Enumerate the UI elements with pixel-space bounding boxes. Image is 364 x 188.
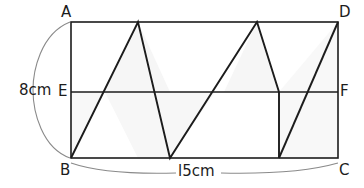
shaded-regions	[71, 22, 338, 158]
width-brace-right	[221, 163, 338, 173]
vertex-label-c: C	[339, 163, 349, 178]
shade-triangle-upper-right	[224, 22, 279, 92]
shade-triangle-upper-left	[105, 22, 170, 92]
width-dimension-label: l5cm	[176, 164, 217, 179]
diagram-canvas: A D E F B C 8cm l5cm	[0, 0, 364, 188]
vertex-label-e: E	[58, 84, 67, 99]
width-brace-left	[71, 163, 176, 173]
vertex-label-d: D	[339, 5, 351, 20]
vertex-label-a: A	[61, 5, 71, 20]
geometry-figure	[0, 0, 364, 188]
height-dimension-label: 8cm	[19, 83, 51, 98]
vertex-label-b: B	[60, 163, 70, 178]
vertex-label-f: F	[340, 84, 349, 99]
